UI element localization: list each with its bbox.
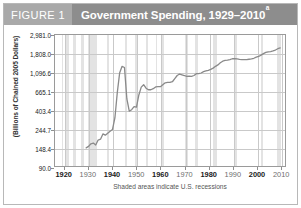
x-axis-tick-label: 2000 [249, 170, 265, 179]
x-axis-tick-label: 1940 [104, 170, 120, 179]
figure-title: Government Spending, 1929–2010a [72, 8, 269, 21]
figure-header: FIGURE 1 Government Spending, 1929–2010a [4, 4, 297, 25]
y-axis-tickmark [51, 111, 54, 112]
y-axis-tick-label: 90.0 [39, 165, 51, 172]
figure-title-superscript: a [266, 4, 270, 11]
y-axis-tick-label: 665.1 [35, 88, 51, 95]
x-axis-tick-label: 1930 [80, 170, 96, 179]
y-axis-tickmark [51, 130, 54, 131]
figure-title-text: Government Spending, 1929–2010 [81, 9, 265, 21]
x-axis-labels: 1920193019401950196019701980199020002010 [54, 170, 286, 182]
plot-area [54, 34, 286, 167]
x-axis-tick-label: 1920 [55, 170, 71, 179]
y-axis-tickmark [51, 35, 54, 36]
y-axis-tick-label: 244.7 [35, 126, 51, 133]
x-axis-tick-label: 2010 [273, 170, 289, 179]
spending-line-chart [55, 35, 285, 166]
y-axis-tickmark [51, 73, 54, 74]
x-axis-tick-label: 1960 [152, 170, 168, 179]
chart-area: (Billions of Chained 2005 Dollars) 2,981… [4, 25, 297, 204]
y-axis-tickmark [51, 92, 54, 93]
y-axis-labels: 2,981.01,808.01,096.6665.1403.4244.7148.… [4, 34, 51, 167]
chart-caption: Shaded areas indicate U.S. recessions [54, 183, 286, 190]
x-axis-tick-label: 1980 [200, 170, 216, 179]
y-axis-tick-label: 2,981.0 [30, 32, 51, 39]
y-axis-tick-label: 148.4 [35, 145, 51, 152]
y-axis-tickmark [51, 149, 54, 150]
figure-container: FIGURE 1 Government Spending, 1929–2010a… [0, 0, 301, 208]
y-axis-tickmark [51, 54, 54, 55]
spending-line [86, 48, 280, 148]
y-axis-tick-label: 1,808.0 [30, 51, 51, 58]
x-axis-tick-label: 1990 [225, 170, 241, 179]
x-axis-tick-label: 1950 [128, 170, 144, 179]
y-axis-tick-label: 1,096.6 [30, 69, 51, 76]
x-axis-tick-label: 1970 [176, 170, 192, 179]
y-axis-tick-label: 403.4 [35, 107, 51, 114]
